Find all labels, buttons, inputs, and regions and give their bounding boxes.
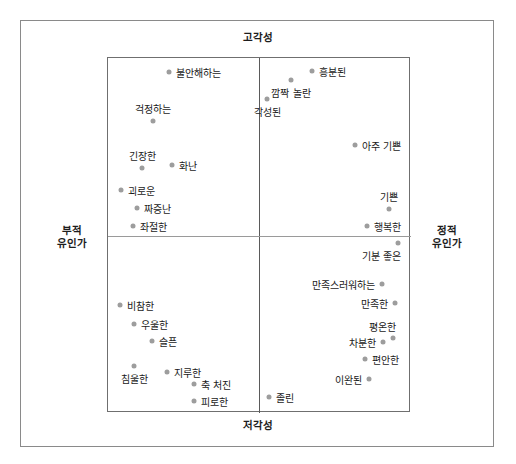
data-point: [118, 303, 123, 308]
data-point: [396, 241, 401, 246]
axis-label-low-arousal-text: 저각성: [0, 419, 516, 432]
data-point-label: 아주 기쁜: [362, 141, 401, 152]
data-point: [367, 377, 372, 382]
data-point-label: 차분한: [349, 338, 376, 349]
data-point-label: 깜짝 놀란: [271, 88, 310, 99]
data-point-label: 흥분된: [319, 67, 346, 78]
horizontal-axis-divider: [108, 236, 411, 237]
data-point: [365, 224, 370, 229]
data-point-label: 행복한: [374, 222, 401, 233]
data-point-label: 침울한: [121, 374, 148, 385]
data-point: [192, 382, 197, 387]
data-point: [265, 97, 270, 102]
data-point: [391, 336, 396, 341]
data-point-label: 졸린: [276, 393, 294, 404]
axis-label-high-arousal-text: 고각성: [0, 31, 516, 44]
plot-area: 불안해하는걱정하는긴장한화난괴로운짜증난좌절한흥분된깜짝 놀란각성된아주 기쁜기…: [107, 57, 410, 412]
data-point-label: 편안한: [372, 355, 399, 366]
data-point: [353, 143, 358, 148]
axis-label-negative-valence-line2: 유인가: [44, 237, 100, 250]
data-point: [151, 119, 156, 124]
data-point: [267, 395, 272, 400]
data-point: [165, 370, 170, 375]
data-point-label: 피로한: [201, 397, 228, 408]
axis-label-positive-valence: 정적 유인가: [418, 224, 476, 250]
data-point: [387, 207, 392, 212]
data-point-label: 화난: [179, 161, 197, 172]
data-point-label: 만족한: [361, 299, 388, 310]
data-point: [150, 339, 155, 344]
data-point-label: 걱정하는: [135, 104, 171, 115]
data-point: [192, 399, 197, 404]
data-point-label: 슬픈: [159, 337, 177, 348]
data-point: [289, 78, 294, 83]
data-point: [363, 357, 368, 362]
data-point-label: 만족스러워하는: [312, 280, 375, 291]
data-point-label: 긴장한: [129, 151, 156, 162]
data-point: [381, 340, 386, 345]
data-point-label: 이완된: [335, 375, 362, 386]
data-point: [119, 188, 124, 193]
data-point-label: 좌절한: [140, 222, 167, 233]
data-point-label: 기분 좋은: [362, 251, 401, 262]
data-point: [310, 69, 315, 74]
data-point-label: 기쁜: [380, 192, 398, 203]
data-point-label: 괴로운: [128, 186, 155, 197]
data-point-label: 우울한: [141, 320, 168, 331]
data-point: [170, 163, 175, 168]
data-point-label: 각성된: [254, 107, 281, 118]
data-point-label: 평온한: [369, 322, 396, 333]
axis-label-positive-valence-line1: 정적: [418, 224, 476, 237]
data-point-label: 지루한: [174, 368, 201, 379]
data-point-label: 축 처진: [201, 380, 231, 391]
axis-label-negative-valence-line1: 부적: [44, 224, 100, 237]
data-point-label: 불안해하는: [176, 68, 221, 79]
data-point: [131, 224, 136, 229]
data-point: [167, 70, 172, 75]
data-point: [132, 322, 137, 327]
data-point: [135, 206, 140, 211]
data-point: [140, 166, 145, 171]
data-point: [393, 301, 398, 306]
emotion-circumplex-figure: 고각성 저각성 부적 유인가 정적 유인가 불안해하는걱정하는긴장한화난괴로운짜…: [0, 0, 516, 464]
axis-label-positive-valence-line2: 유인가: [418, 237, 476, 250]
data-point: [380, 282, 385, 287]
axis-label-negative-valence: 부적 유인가: [44, 224, 100, 250]
data-point: [132, 364, 137, 369]
data-point-label: 비참한: [127, 301, 154, 312]
data-point-label: 짜증난: [144, 204, 171, 215]
axis-label-low-arousal: 저각성: [0, 419, 516, 432]
axis-label-high-arousal: 고각성: [0, 31, 516, 44]
